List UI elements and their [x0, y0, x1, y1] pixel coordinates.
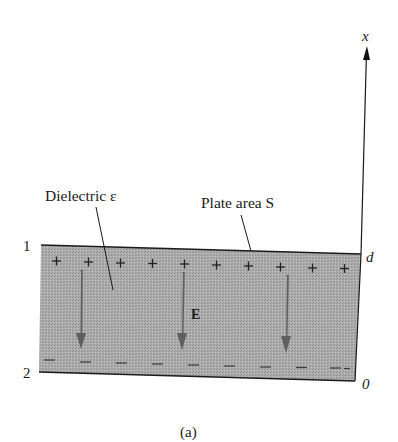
x-axis — [361, 52, 367, 254]
axis-label-x: x — [361, 28, 369, 44]
plate-area-leader-line — [241, 215, 251, 251]
x-axis-arrowhead-icon — [363, 46, 370, 60]
top-plate-label: 1 — [23, 238, 31, 254]
capacitor-figure: Dielectric ε Plate area S E 1 2 x d 0 (a… — [0, 0, 398, 442]
figure-caption: (a) — [180, 424, 197, 441]
plate-area-label: Plate area S — [201, 194, 274, 211]
field-label: E — [191, 307, 200, 322]
capacitor-diagram: Dielectric ε Plate area S E 1 2 x d 0 (a… — [0, 0, 398, 442]
axis-tick-0: 0 — [362, 376, 370, 392]
dielectric-label: Dielectric ε — [45, 187, 117, 204]
axis-tick-d: d — [366, 249, 374, 265]
bottom-plate-label: 2 — [23, 365, 31, 381]
